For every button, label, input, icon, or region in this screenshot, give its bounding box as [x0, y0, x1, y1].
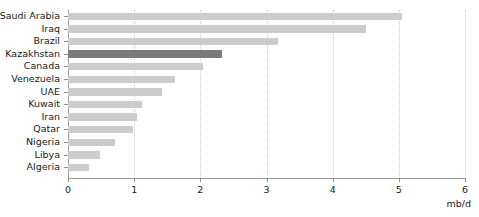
bar-canada[interactable]	[68, 63, 203, 70]
bar-row[interactable]	[68, 48, 465, 61]
category-label-nigeria: Nigeria	[26, 136, 60, 149]
bar-uae[interactable]	[68, 88, 162, 95]
bar-row[interactable]	[68, 73, 465, 86]
bar-row[interactable]	[68, 60, 465, 73]
bar-kuwait[interactable]	[68, 101, 142, 108]
x-axis-tick-label-6: 6	[462, 184, 468, 195]
x-axis-tick-label-4: 4	[330, 184, 336, 195]
bar-chart: Saudi ArabiaIraqBrazilKazakhstanCanadaVe…	[0, 0, 479, 217]
plot-area	[68, 10, 465, 178]
x-axis-tick-label-1: 1	[131, 184, 137, 195]
category-label-brazil: Brazil	[33, 35, 60, 48]
category-label-qatar: Qatar	[33, 123, 60, 136]
bar-venezuela[interactable]	[68, 76, 175, 83]
bar-row[interactable]	[68, 10, 465, 23]
bar-nigeria[interactable]	[68, 139, 115, 146]
bar-row[interactable]	[68, 23, 465, 36]
category-label-kuwait: Kuwait	[28, 98, 60, 111]
bar-kazakhstan[interactable]	[68, 50, 222, 57]
bar-row[interactable]	[68, 149, 465, 162]
x-axis-tick-label-3: 3	[263, 184, 269, 195]
bar-iran[interactable]	[68, 113, 137, 120]
category-label-iran: Iran	[41, 111, 60, 124]
category-label-saudi-arabia: Saudi Arabia	[0, 10, 60, 23]
category-label-libya: Libya	[35, 149, 60, 162]
bars-layer	[68, 10, 465, 178]
bar-row[interactable]	[68, 123, 465, 136]
category-axis: Saudi ArabiaIraqBrazilKazakhstanCanadaVe…	[0, 10, 68, 178]
x-axis-tick-3	[267, 178, 268, 182]
gridline-6	[465, 10, 466, 178]
bar-algeria[interactable]	[68, 164, 89, 171]
x-axis-unit-label: mb/d	[446, 198, 471, 209]
category-label-canada: Canada	[24, 60, 60, 73]
x-axis-tick-label-5: 5	[396, 184, 402, 195]
x-axis-tick-5	[399, 178, 400, 182]
x-axis-tick-label-0: 0	[65, 184, 71, 195]
category-label-venezuela: Venezuela	[11, 73, 60, 86]
x-axis-tick-4	[333, 178, 334, 182]
x-axis-tick-6	[465, 178, 466, 182]
category-label-iraq: Iraq	[41, 23, 60, 36]
category-label-uae: UAE	[41, 86, 60, 99]
bar-row[interactable]	[68, 86, 465, 99]
x-axis-tick-0	[68, 178, 69, 182]
bar-brazil[interactable]	[68, 38, 278, 45]
bar-iraq[interactable]	[68, 25, 366, 32]
x-axis-tick-2	[200, 178, 201, 182]
bar-row[interactable]	[68, 161, 465, 174]
x-axis-tick-1	[134, 178, 135, 182]
bar-row[interactable]	[68, 35, 465, 48]
category-label-algeria: Algeria	[27, 161, 60, 174]
bar-row[interactable]	[68, 98, 465, 111]
bar-libya[interactable]	[68, 151, 100, 158]
bar-row[interactable]	[68, 136, 465, 149]
bar-saudi-arabia[interactable]	[68, 13, 402, 20]
x-axis-tick-label-2: 2	[197, 184, 203, 195]
bar-row[interactable]	[68, 111, 465, 124]
category-label-kazakhstan: Kazakhstan	[5, 48, 60, 61]
bar-qatar[interactable]	[68, 126, 133, 133]
